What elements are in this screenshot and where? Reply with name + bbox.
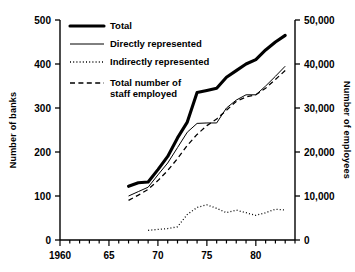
- right-tick-label: 30,000: [304, 103, 335, 114]
- x-tick-label: 80: [250, 250, 262, 261]
- left-tick-label: 500: [34, 15, 51, 26]
- legend-label-3: staff employed: [110, 88, 177, 99]
- left-tick-label: 0: [45, 235, 51, 246]
- right-tick-label: 0: [304, 235, 310, 246]
- chart-figure: 0100200300400500010,00020,00030,00040,00…: [0, 0, 355, 272]
- figure-caption: [0, 263, 355, 272]
- legend-label-3: Total number of: [110, 77, 182, 88]
- right-tick-label: 20,000: [304, 147, 335, 158]
- right-tick-label: 10,000: [304, 191, 335, 202]
- x-tick-label: 70: [152, 250, 164, 261]
- right-axis-title: Number of employees: [342, 81, 352, 179]
- left-tick-label: 200: [34, 147, 51, 158]
- series-line-indirectly-represented: [148, 205, 285, 231]
- legend-label-2: Indirectly represented: [110, 56, 209, 67]
- x-tick-label: 75: [201, 250, 213, 261]
- left-tick-label: 300: [34, 103, 51, 114]
- x-tick-label: 65: [103, 250, 115, 261]
- left-axis-title: Number of banks: [8, 92, 18, 169]
- right-tick-label: 50,000: [304, 15, 335, 26]
- legend-label-1: Directly represented: [110, 38, 202, 49]
- left-tick-label: 400: [34, 59, 51, 70]
- left-tick-label: 100: [34, 191, 51, 202]
- line-chart: 0100200300400500010,00020,00030,00040,00…: [0, 0, 355, 272]
- x-tick-label: 1960: [49, 250, 72, 261]
- legend-label-0: Total: [110, 20, 132, 31]
- right-tick-label: 40,000: [304, 59, 335, 70]
